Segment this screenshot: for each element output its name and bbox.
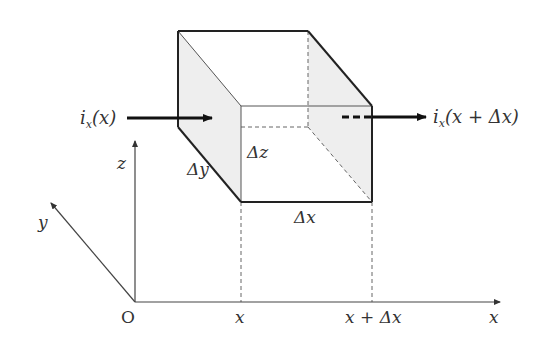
axis-y-label: y — [37, 212, 48, 232]
dz-label: Δz — [246, 142, 269, 162]
tick-x-label: x — [235, 307, 245, 327]
tick-x-plus-dx-label: x + Δx — [345, 307, 402, 327]
inflow-label: ix(x) — [80, 107, 116, 131]
right-face — [308, 31, 372, 202]
axis-z-label: z — [116, 153, 127, 173]
dy-label: Δy — [186, 159, 209, 179]
outflow-label: ix(x + Δx) — [433, 106, 519, 130]
origin-label: O — [121, 307, 135, 327]
axis-x-label: x — [489, 307, 499, 327]
dx-label: Δx — [293, 207, 316, 227]
diagram-canvas: ix(x) ix(x + Δx) Δz Δy Δx z y x O x x + … — [0, 0, 552, 342]
